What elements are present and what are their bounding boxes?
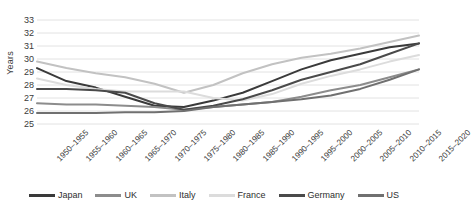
legend-label: France	[238, 191, 266, 200]
legend-label: Germany	[308, 191, 345, 200]
legend-item-italy[interactable]: Italy	[150, 191, 196, 200]
legend-swatch-icon	[95, 194, 121, 197]
series-lines	[37, 36, 419, 113]
legend-item-us[interactable]: US	[358, 191, 400, 200]
legend-swatch-icon	[279, 194, 305, 197]
legend-label: UK	[124, 191, 137, 200]
legend-label: Italy	[179, 191, 196, 200]
legend-swatch-icon	[358, 194, 384, 197]
legend-label: US	[387, 191, 400, 200]
series-line-us	[37, 69, 419, 113]
gridlines	[37, 20, 419, 124]
legend-item-japan[interactable]: Japan	[29, 191, 83, 200]
legend-item-uk[interactable]: UK	[95, 191, 137, 200]
series-line-france	[37, 55, 419, 101]
legend-item-france[interactable]: France	[209, 191, 266, 200]
legend-swatch-icon	[29, 194, 55, 197]
legend-swatch-icon	[209, 194, 235, 197]
legend-swatch-icon	[150, 194, 176, 197]
legend-item-germany[interactable]: Germany	[279, 191, 345, 200]
legend-label: Japan	[58, 191, 83, 200]
chart-legend: JapanUKItalyFranceGermanyUS	[0, 186, 428, 204]
